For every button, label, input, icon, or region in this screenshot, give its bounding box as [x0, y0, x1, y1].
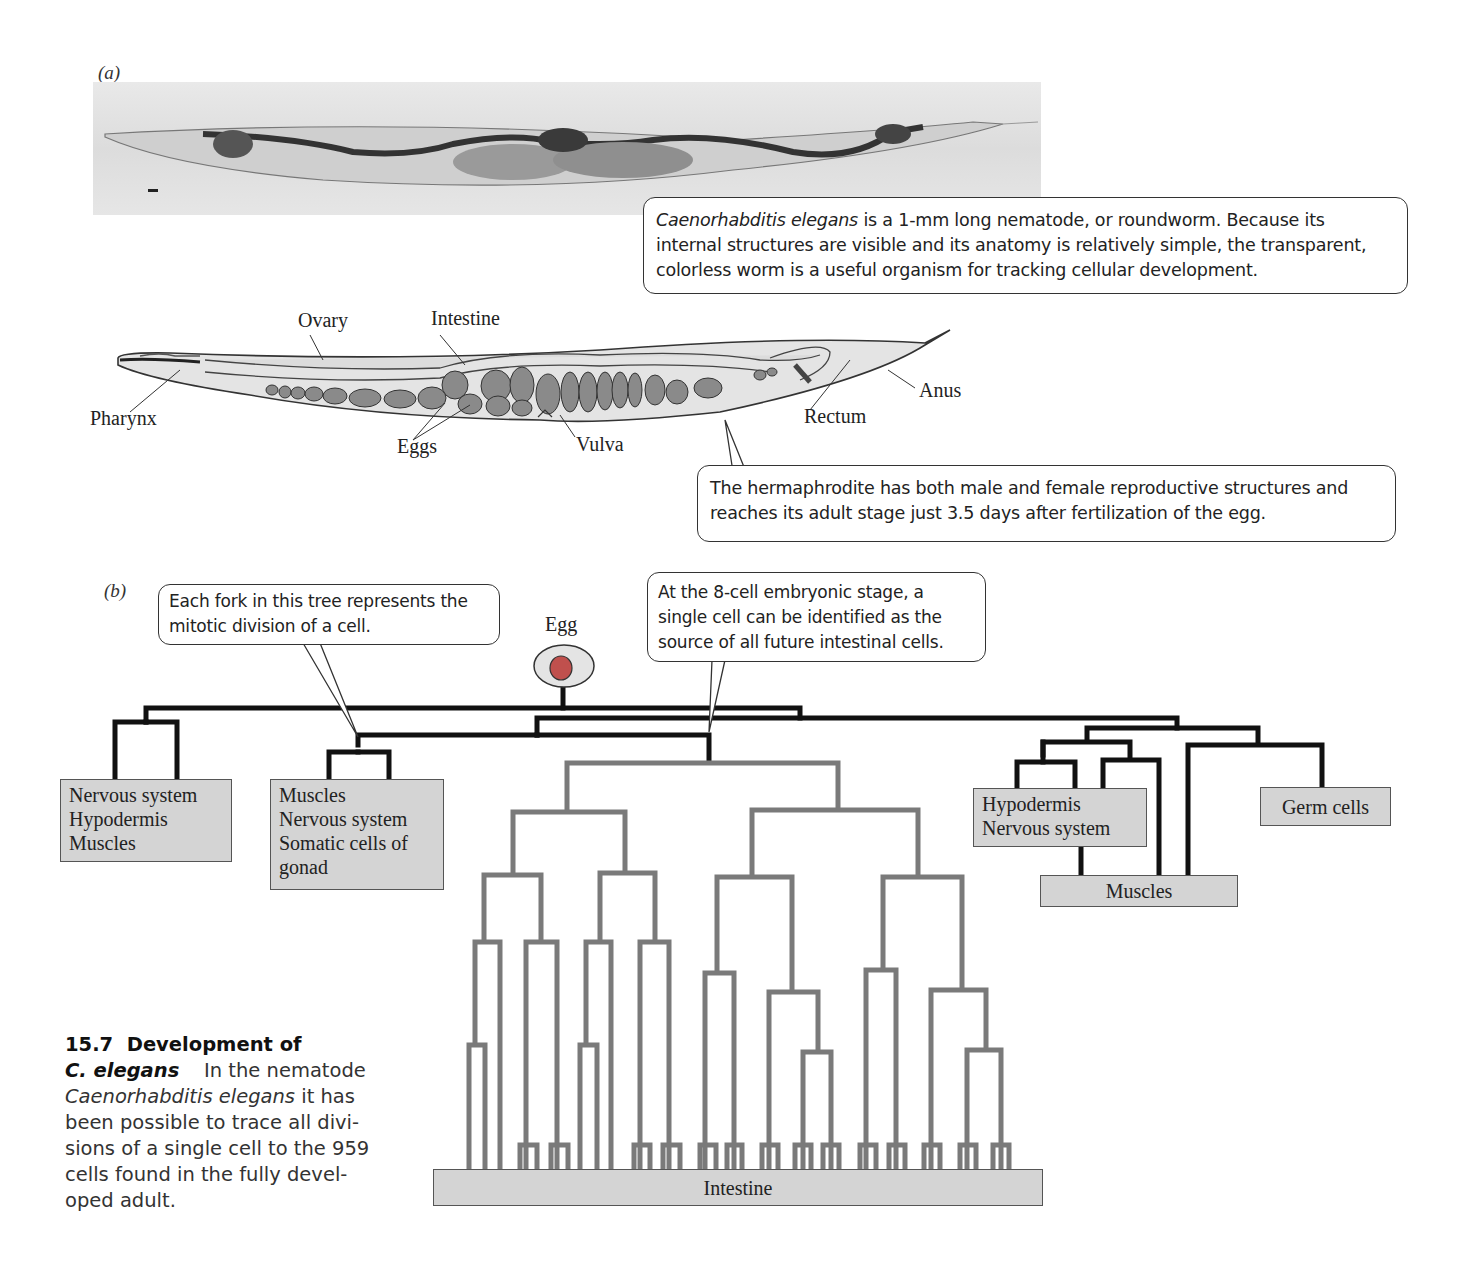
caption-title-2: C. elegans — [65, 1059, 179, 1082]
callout-elegans-description: Caenorhabditis elegans is a 1-mm long ne… — [643, 197, 1408, 294]
label-intestine-anatomy: Intestine — [431, 307, 500, 330]
label-vulva: Vulva — [576, 433, 624, 456]
fate-label: Muscles — [1106, 880, 1173, 902]
worm-micrograph — [93, 82, 1041, 215]
micrograph-worm-icon — [93, 82, 1041, 215]
fate-box-germ: Germ cells — [1260, 787, 1391, 826]
label-egg: Egg — [545, 613, 577, 636]
caption-line: cells found in the fully devel- — [65, 1162, 395, 1188]
caption-title-1: Development of — [127, 1033, 302, 1056]
caption-line: sions of a single cell to the 959 — [65, 1136, 395, 1162]
fate-label: Intestine — [704, 1177, 773, 1199]
fate-box-c: Hypodermis Nervous system — [973, 788, 1147, 847]
fate-box-ms: Muscles Nervous system Somatic cells of … — [270, 779, 444, 890]
fate-label: Nervous system — [279, 807, 435, 831]
label-pharynx: Pharynx — [90, 407, 157, 430]
caption-text-1: In the nematode — [204, 1059, 366, 1082]
panel-a-label: (a) — [98, 62, 120, 84]
fate-box-intestine: Intestine — [433, 1169, 1043, 1206]
fate-box-muscles: Muscles — [1040, 875, 1238, 907]
callout-hermaphrodite: The hermaphrodite has both male and fema… — [697, 465, 1396, 542]
fate-label: gonad — [279, 855, 435, 879]
egg-icon — [534, 645, 594, 687]
fate-box-ab: Nervous system Hypodermis Muscles — [60, 779, 232, 862]
fate-label: Muscles — [69, 831, 223, 855]
fate-label: Somatic cells of — [279, 831, 435, 855]
label-eggs: Eggs — [397, 435, 437, 458]
panel-b-label: (b) — [104, 580, 126, 602]
callout-fork: Each fork in this tree represents the mi… — [158, 584, 500, 645]
fate-label: Hypodermis — [69, 807, 223, 831]
fate-label: Nervous system — [69, 783, 223, 807]
caption-line: oped adult. — [65, 1188, 395, 1214]
fate-label: Muscles — [279, 783, 435, 807]
fate-label: Hypodermis — [982, 792, 1138, 816]
caption-number: 15.7 — [65, 1033, 113, 1056]
label-anus: Anus — [919, 379, 961, 402]
label-rectum: Rectum — [804, 405, 866, 428]
fate-label: Nervous system — [982, 816, 1138, 840]
caption-line: been possible to trace all divi- — [65, 1110, 395, 1136]
species-name: Caenorhabditis elegans — [656, 210, 858, 230]
caption-species: Caenorhabditis elegans — [65, 1085, 295, 1108]
fate-label: Germ cells — [1282, 796, 1369, 818]
callout-8cell: At the 8-cell embryonic stage, a single … — [647, 572, 986, 662]
figure-caption: 15.7 Development of C. elegans In the ne… — [65, 1032, 395, 1214]
label-ovary: Ovary — [298, 309, 348, 332]
